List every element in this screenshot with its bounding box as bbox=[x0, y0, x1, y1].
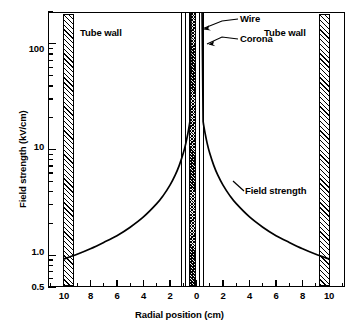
x-tick-label-8: 6 bbox=[262, 291, 290, 301]
x-minor-tick-9 bbox=[315, 283, 316, 287]
y-minor-tick-7 bbox=[48, 165, 53, 166]
figure-root: 100 10 1.0 0.5 Field strength (kV/cm) 10… bbox=[0, 0, 359, 326]
x-tick-label-0: 10 bbox=[50, 291, 78, 301]
wire-shape bbox=[189, 13, 196, 286]
y-minor-tick-0.9 bbox=[48, 259, 53, 260]
y-minor-tick-0.6 bbox=[48, 278, 53, 279]
x-major-tick-4 bbox=[249, 280, 250, 287]
tube-wall-left-label: Tube wall bbox=[80, 27, 122, 38]
wire-label: Wire bbox=[240, 13, 260, 24]
x-minor-tick-5 bbox=[262, 283, 263, 287]
y-minor-tick-5 bbox=[48, 181, 53, 182]
y-minor-tick-3 bbox=[48, 204, 53, 205]
y-minor-tick-50 bbox=[48, 75, 53, 76]
x-minor-tick--9 bbox=[77, 283, 78, 287]
y-minor-tick-90 bbox=[48, 48, 53, 49]
y-minor-tick-30 bbox=[48, 98, 53, 99]
x-tick-label-1: 8 bbox=[76, 291, 104, 301]
y-minor-tick-200 bbox=[48, 11, 53, 12]
field-strength-curve-label: Field strength bbox=[245, 185, 306, 196]
x-tick-label-7: 4 bbox=[236, 291, 264, 301]
y-minor-tick-40 bbox=[48, 85, 53, 86]
tube-wall-left-shape bbox=[63, 14, 74, 286]
x-major-tick--4 bbox=[143, 280, 144, 287]
y-minor-tick-4 bbox=[48, 191, 53, 192]
y-tick-label-1: 1.0 bbox=[16, 247, 44, 257]
y-minor-tick-80 bbox=[48, 53, 53, 54]
plot-frame bbox=[48, 12, 345, 287]
x-tick-label-4: 2 bbox=[156, 291, 184, 301]
x-minor-tick--1 bbox=[183, 283, 184, 287]
x-tick-label-5: 0 bbox=[183, 291, 211, 301]
x-minor-tick-3 bbox=[236, 283, 237, 287]
corona-boundary-right-outer bbox=[203, 13, 204, 286]
y-minor-tick-0.7 bbox=[48, 271, 53, 272]
y-major-tick-10 bbox=[48, 149, 56, 150]
x-minor-tick-7 bbox=[289, 283, 290, 287]
corona-label: Corona bbox=[240, 33, 273, 44]
y-minor-tick-60 bbox=[48, 67, 53, 68]
y-minor-tick-0.8 bbox=[48, 265, 53, 266]
x-tick-label-9: 8 bbox=[289, 291, 317, 301]
tube-wall-right-shape bbox=[319, 14, 330, 286]
y-minor-tick-70 bbox=[48, 60, 53, 61]
x-minor-tick-1 bbox=[209, 283, 210, 287]
y-minor-tick-8 bbox=[48, 159, 53, 160]
x-minor-tick-11 bbox=[342, 283, 343, 287]
x-major-tick--2 bbox=[169, 280, 170, 287]
x-minor-tick--11 bbox=[50, 283, 51, 287]
y-minor-tick-2 bbox=[48, 223, 53, 224]
y-major-tick-100 bbox=[48, 43, 56, 44]
x-major-tick-0 bbox=[196, 280, 197, 287]
x-tick-label-10: 10 bbox=[315, 291, 343, 301]
y-minor-tick-6 bbox=[48, 172, 53, 173]
y-tick-label-0point5: 0.5 bbox=[16, 282, 44, 292]
y-minor-tick-9 bbox=[48, 154, 53, 155]
x-major-tick-2 bbox=[222, 280, 223, 287]
x-tick-label-6: 2 bbox=[209, 291, 237, 301]
x-tick-label-2: 6 bbox=[103, 291, 131, 301]
y-major-tick-1 bbox=[48, 255, 56, 256]
corona-boundary-left-inner bbox=[185, 13, 186, 286]
corona-boundary-right-inner bbox=[199, 13, 200, 286]
x-major-tick-6 bbox=[275, 280, 276, 287]
corona-boundary-left-outer bbox=[181, 13, 182, 286]
x-tick-label-3: 4 bbox=[129, 291, 157, 301]
x-minor-tick--5 bbox=[130, 283, 131, 287]
x-minor-tick--7 bbox=[103, 283, 104, 287]
x-major-tick--6 bbox=[116, 280, 117, 287]
y-minor-tick-20 bbox=[48, 117, 53, 118]
y-axis-title: Field strength (kV/cm) bbox=[17, 110, 28, 208]
x-major-tick-8 bbox=[302, 280, 303, 287]
x-axis-title: Radial position (cm) bbox=[0, 309, 359, 320]
x-minor-tick--3 bbox=[156, 283, 157, 287]
y-tick-label-100: 100 bbox=[16, 44, 44, 54]
x-major-tick--8 bbox=[90, 280, 91, 287]
